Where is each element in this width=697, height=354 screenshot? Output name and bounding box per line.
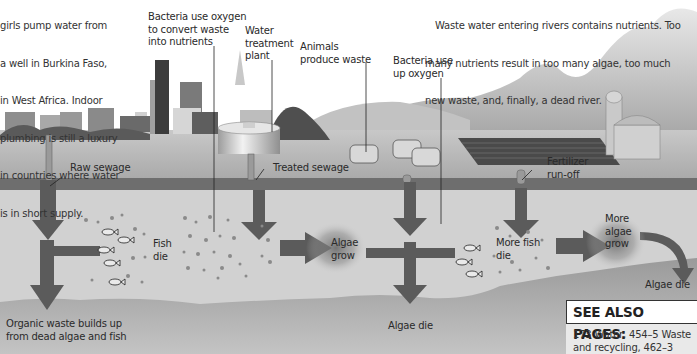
summary-caption-line: new waste, and, finally, a dead river. (425, 95, 681, 108)
label-bacteria-convert: Bacteria use oxygen to convert waste int… (148, 11, 246, 49)
label-water-treatment: Water treatment plant (245, 25, 293, 63)
label-animals-waste: Animals produce waste (300, 41, 371, 66)
label-raw-sewage: Raw sewage (70, 162, 130, 175)
label-algae-die-right: Algae die (645, 279, 690, 292)
label-bacteria-use-up: Bacteria use up oxygen (393, 55, 453, 80)
see-also-title: SEE ALSO PAGES: (566, 300, 697, 324)
intro-caption-line: girls pump water from (0, 20, 120, 33)
label-algae-die-center: Algae die (388, 320, 433, 333)
label-more-fish-die: More fish die (496, 237, 540, 262)
summary-caption-line: Waste water entering rivers contains nut… (425, 20, 681, 33)
label-organic-waste: Organic waste builds up from dead algae … (6, 318, 126, 343)
intro-caption-line: is in short supply. (0, 208, 120, 221)
label-fish-die: Fish die (153, 238, 172, 263)
label-treated-sewage: Treated sewage (273, 162, 349, 175)
label-algae-grow: Algae grow (331, 237, 358, 262)
intro-caption-line: in West Africa. Indoor (0, 95, 120, 108)
intro-caption-line: plumbing is still a luxury (0, 133, 120, 146)
summary-caption: Waste water entering rivers contains nut… (425, 0, 681, 120)
intro-caption: girls pump water from a well in Burkina … (0, 0, 120, 233)
summary-caption-line: many nutrients result in too many algae,… (425, 58, 681, 71)
label-more-algae-grow: More algae grow (605, 213, 632, 251)
label-fertilizer-runoff: Fertilizer run-off (547, 156, 588, 181)
intro-caption-line: a well in Burkina Faso, (0, 58, 120, 71)
treatment-tank (218, 122, 280, 154)
see-also-links[interactable]: 173 Water, 454–5 Waste and recycling, 46… (573, 328, 691, 354)
crop-field (458, 138, 620, 165)
see-also-box: SEE ALSO PAGES: 173 Water, 454–5 Waste a… (566, 300, 697, 354)
